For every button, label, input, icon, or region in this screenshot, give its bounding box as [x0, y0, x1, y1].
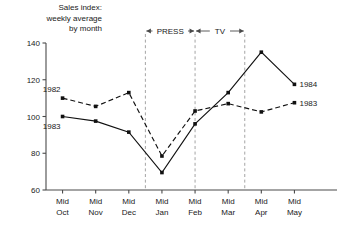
data-point-marker: [226, 102, 230, 106]
data-point-marker: [61, 115, 65, 119]
data-point-marker: [94, 105, 98, 109]
x-tick-label: Mid: [56, 197, 69, 206]
x-axis-tick-labels: MidOctMidNovMidDecMidJanMidFebMidMarMidA…: [56, 190, 302, 217]
x-tick-label: May: [287, 208, 302, 217]
x-tick-label: Nov: [89, 208, 103, 217]
series-start-label-1983: 1983: [43, 122, 61, 131]
annotation-span-press: PRESS: [146, 27, 194, 36]
x-tick-label: Feb: [188, 208, 202, 217]
x-tick-label: Jan: [155, 208, 168, 217]
annotation-span-tv: TV: [196, 27, 244, 36]
y-tick-label: 60: [31, 186, 40, 195]
data-point-marker: [226, 91, 230, 95]
data-point-marker: [61, 96, 65, 100]
series-start-label-1982: 1982: [43, 85, 61, 94]
data-point-marker: [127, 91, 131, 95]
data-point-marker: [260, 50, 264, 54]
x-tick-label: Mid: [189, 197, 202, 206]
x-tick-label: Mid: [155, 197, 168, 206]
sales-index-line-chart: Sales index: weekly average by month PRE…: [0, 0, 348, 228]
x-tick-label: Mid: [288, 197, 301, 206]
x-tick-label: Mid: [255, 197, 268, 206]
y-tick-label: 80: [31, 149, 40, 158]
data-point-marker: [260, 110, 264, 114]
data-point-marker: [293, 83, 297, 87]
x-tick-label: Mid: [222, 197, 235, 206]
annotation-label: TV: [215, 27, 226, 36]
y-tick-label: 140: [27, 39, 41, 48]
x-tick-label: Mid: [122, 197, 135, 206]
x-tick-label: Mid: [89, 197, 102, 206]
y-tick-label: 120: [27, 76, 41, 85]
data-point-marker: [127, 130, 131, 134]
chart-plot-area: PRESSTV 6080100120140 MidOctMidNovMidDec…: [0, 0, 348, 228]
data-point-marker: [160, 171, 164, 175]
y-tick-label: 100: [27, 113, 41, 122]
data-point-marker: [193, 122, 197, 126]
data-point-marker: [94, 119, 98, 123]
x-tick-label: Mar: [221, 208, 235, 217]
series-end-label-1983: 1983: [299, 99, 317, 108]
series-end-label-1984: 1984: [299, 80, 317, 89]
x-tick-label: Dec: [122, 208, 136, 217]
x-tick-label: Oct: [56, 208, 69, 217]
chart-axes: [46, 43, 337, 190]
data-point-marker: [293, 101, 297, 105]
x-tick-label: Apr: [255, 208, 268, 217]
series-endpoint-labels: 1983198419821983: [43, 80, 318, 130]
y-axis-tick-labels: 6080100120140: [27, 39, 46, 195]
series-line-1982: [63, 93, 295, 156]
data-point-marker: [160, 154, 164, 158]
chart-series-group: [61, 50, 296, 174]
data-point-marker: [193, 109, 197, 113]
annotation-label: PRESS: [157, 27, 184, 36]
